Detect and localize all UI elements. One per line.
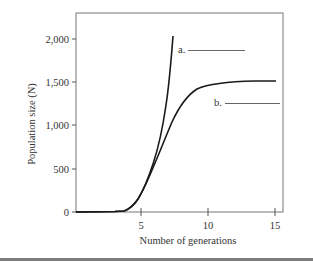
y-tick-label: 500 (53, 164, 69, 175)
y-axis-title: Population size (N) (26, 83, 38, 165)
curve-b-logistic (76, 81, 276, 212)
y-tick-label: 1,500 (45, 77, 69, 88)
x-tick-label: 5 (138, 220, 143, 231)
population-growth-chart: 0 500 1,000 1,500 2,000 5 10 15 Number o… (0, 0, 313, 263)
y-axis-ticks (72, 39, 76, 212)
x-tick-label: 15 (270, 220, 281, 231)
bottom-divider (0, 258, 313, 261)
y-tick-label: 2,000 (45, 34, 69, 45)
annotation-b-label: b. (214, 97, 222, 108)
curve-a-exponential (76, 36, 173, 212)
y-tick-label: 0 (64, 207, 69, 218)
annotation-a-label: a. (178, 44, 185, 55)
plot-frame (76, 13, 283, 212)
y-tick-label: 1,000 (45, 120, 69, 131)
x-axis-title: Number of generations (140, 235, 237, 246)
x-tick-label: 10 (203, 220, 214, 231)
